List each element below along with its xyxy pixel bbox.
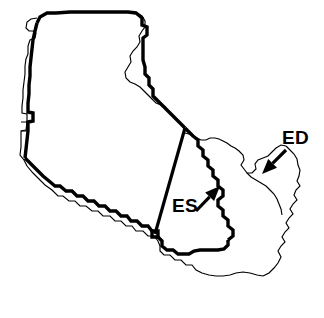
es-septum-line bbox=[155, 128, 185, 234]
es-contour-left bbox=[25, 23, 37, 158]
es-label: ES bbox=[172, 195, 198, 216]
es-contour-upper-right bbox=[143, 46, 185, 128]
ed-contour-junction-left bbox=[158, 241, 263, 276]
figure-root: ED ES bbox=[0, 0, 324, 318]
es-contour-group bbox=[25, 12, 233, 254]
ed-contour-right-lower bbox=[247, 173, 282, 215]
contour-diagram-svg: ED ES bbox=[0, 0, 324, 318]
es-leader-line bbox=[196, 197, 210, 211]
ed-annotation: ED bbox=[262, 127, 309, 174]
es-contour-lower-left bbox=[25, 158, 152, 231]
es-contour-chamber-bottom bbox=[158, 237, 228, 254]
ed-label: ED bbox=[282, 127, 309, 148]
ed-leader-line bbox=[273, 150, 286, 163]
ed-contour-group bbox=[20, 13, 300, 276]
es-contour-top bbox=[37, 12, 147, 46]
es-contour-chamber-right bbox=[185, 128, 233, 240]
es-annotation: ES bbox=[172, 186, 220, 216]
